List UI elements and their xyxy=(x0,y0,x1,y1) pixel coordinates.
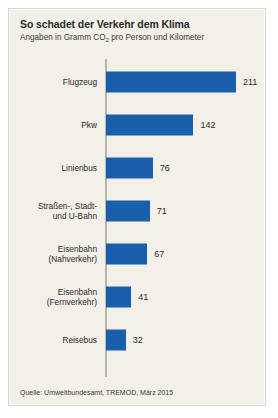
bar-value-label: 32 xyxy=(133,335,143,345)
bar-row: Eisenbahn(Nahverkehr)67 xyxy=(9,232,265,275)
chart-header: So schadet der Verkehr dem Klima Angaben… xyxy=(9,9,265,44)
bar-category-label-line1: Linienbus xyxy=(61,163,97,173)
bar-category-label: Straßen-, Stadt-und U-Bahn xyxy=(9,201,97,221)
bar-fill xyxy=(106,329,126,350)
bar-track: 211 xyxy=(106,71,257,92)
bar-category-label-line1: Straßen-, Stadt- xyxy=(38,201,97,211)
bar-track: 41 xyxy=(106,286,148,307)
bar-category-label: Reisebus xyxy=(9,335,97,345)
bar-category-label: Flugzeug xyxy=(9,77,97,87)
bar-track: 76 xyxy=(106,157,170,178)
chart-subtitle: Angaben in Gramm CO2 pro Person und Kilo… xyxy=(20,32,265,44)
bar-row: Eisenbahn(Fernverkehr)41 xyxy=(9,275,265,318)
bar-fill xyxy=(106,114,193,135)
bar-value-label: 211 xyxy=(243,77,257,87)
bar-category-label-line1: Pkw xyxy=(81,120,97,130)
bar-category-label: Pkw xyxy=(9,120,97,130)
bar-row: Linienbus76 xyxy=(9,146,265,189)
bar-chart-plot: Flugzeug211Pkw142Linienbus76Straßen-, St… xyxy=(9,57,265,379)
page-title: So schadet der Verkehr dem Klima xyxy=(20,18,265,31)
bar-category-label-line2: (Fernverkehr) xyxy=(9,297,97,307)
bar-fill xyxy=(106,200,150,221)
chart-subtitle-subscript: 2 xyxy=(106,36,109,43)
bar-category-label-line1: Eisenbahn xyxy=(58,287,97,297)
bar-fill xyxy=(106,243,147,264)
bar-row: Reisebus32 xyxy=(9,318,265,361)
bar-category-label-line1: Eisenbahn xyxy=(58,244,97,254)
bar-track: 32 xyxy=(106,329,143,350)
bar-fill xyxy=(106,71,236,92)
bar-category-label: Linienbus xyxy=(9,163,97,173)
bar-row: Pkw142 xyxy=(9,103,265,146)
bar-category-label-line1: Flugzeug xyxy=(63,77,97,87)
chart-subtitle-before: Angaben in Gramm CO xyxy=(20,33,106,42)
source-note: Quelle: Umweltbundesamt, TREMOD, März 20… xyxy=(20,389,173,396)
bar-value-label: 76 xyxy=(160,163,170,173)
bar-track: 71 xyxy=(106,200,167,221)
bar-category-label-line1: Reisebus xyxy=(62,335,97,345)
bar-value-label: 142 xyxy=(200,120,215,130)
bar-value-label: 67 xyxy=(154,249,164,259)
bar-fill xyxy=(106,157,153,178)
bar-row: Flugzeug211 xyxy=(9,60,265,103)
bar-fill xyxy=(106,286,131,307)
bar-category-label-line2: (Nahverkehr) xyxy=(9,254,97,264)
chart-panel: So schadet der Verkehr dem Klima Angaben… xyxy=(8,8,266,406)
chart-subtitle-after: pro Person und Kilometer xyxy=(109,33,204,42)
bar-category-label: Eisenbahn(Fernverkehr) xyxy=(9,287,97,307)
bar-value-label: 71 xyxy=(157,206,167,216)
bar-row: Straßen-, Stadt-und U-Bahn71 xyxy=(9,189,265,232)
bar-track: 142 xyxy=(106,114,216,135)
bar-category-label: Eisenbahn(Nahverkehr) xyxy=(9,244,97,264)
bar-category-label-line2: und U-Bahn xyxy=(9,211,97,221)
bar-track: 67 xyxy=(106,243,164,264)
bar-value-label: 41 xyxy=(138,292,148,302)
